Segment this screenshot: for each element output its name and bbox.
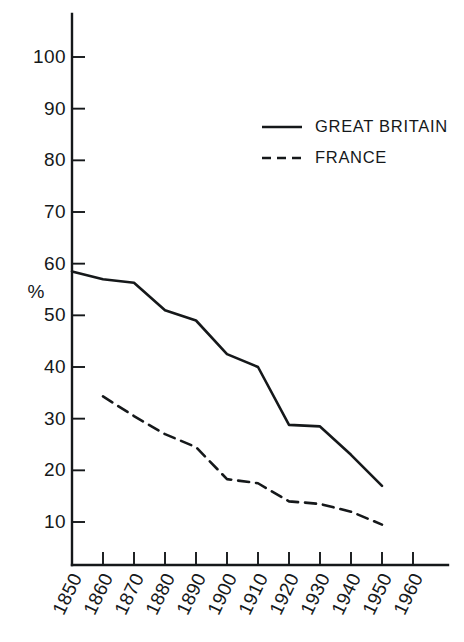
legend-label-great-britain: GREAT BRITAIN [315, 117, 448, 135]
x-tick-label: 1860 [79, 570, 117, 618]
series-line-france [103, 396, 382, 524]
legend-label-france: FRANCE [315, 148, 387, 166]
x-tick-label: 1870 [110, 570, 148, 618]
y-tick-label: 70 [44, 201, 66, 222]
x-tick-label: 1940 [327, 570, 365, 618]
x-tick-label: 1850 [48, 570, 86, 618]
y-tick-label: 90 [44, 98, 66, 119]
y-tick-label: 60 [44, 253, 66, 274]
y-tick-label: 100 [33, 46, 66, 67]
y-tick-label: 40 [44, 356, 66, 377]
y-axis-title: % [28, 281, 45, 302]
y-tick-label: 20 [44, 459, 66, 480]
x-tick-label: 1900 [203, 570, 241, 618]
y-tick-label: 10 [44, 511, 66, 532]
y-tick-label: 30 [44, 408, 66, 429]
x-tick-label: 1930 [296, 570, 334, 618]
legend: GREAT BRITAINFRANCE [262, 117, 448, 166]
chart-canvas: 102030405060708090100 185018601870188018… [0, 0, 464, 642]
x-axis-ticks: 1850186018701880189019001910192019301940… [48, 552, 427, 618]
y-tick-label: 50 [44, 304, 66, 325]
x-tick-label: 1950 [358, 570, 396, 618]
chart-figure: 102030405060708090100 185018601870188018… [0, 0, 464, 642]
x-tick-label: 1910 [234, 570, 272, 618]
data-series [72, 271, 382, 524]
x-tick-label: 1880 [141, 570, 179, 618]
x-tick-label: 1920 [265, 570, 303, 618]
x-tick-label: 1960 [389, 570, 427, 618]
y-tick-label: 80 [44, 149, 66, 170]
series-line-great-britain [72, 271, 382, 485]
x-tick-label: 1890 [172, 570, 210, 618]
axes [72, 14, 448, 565]
